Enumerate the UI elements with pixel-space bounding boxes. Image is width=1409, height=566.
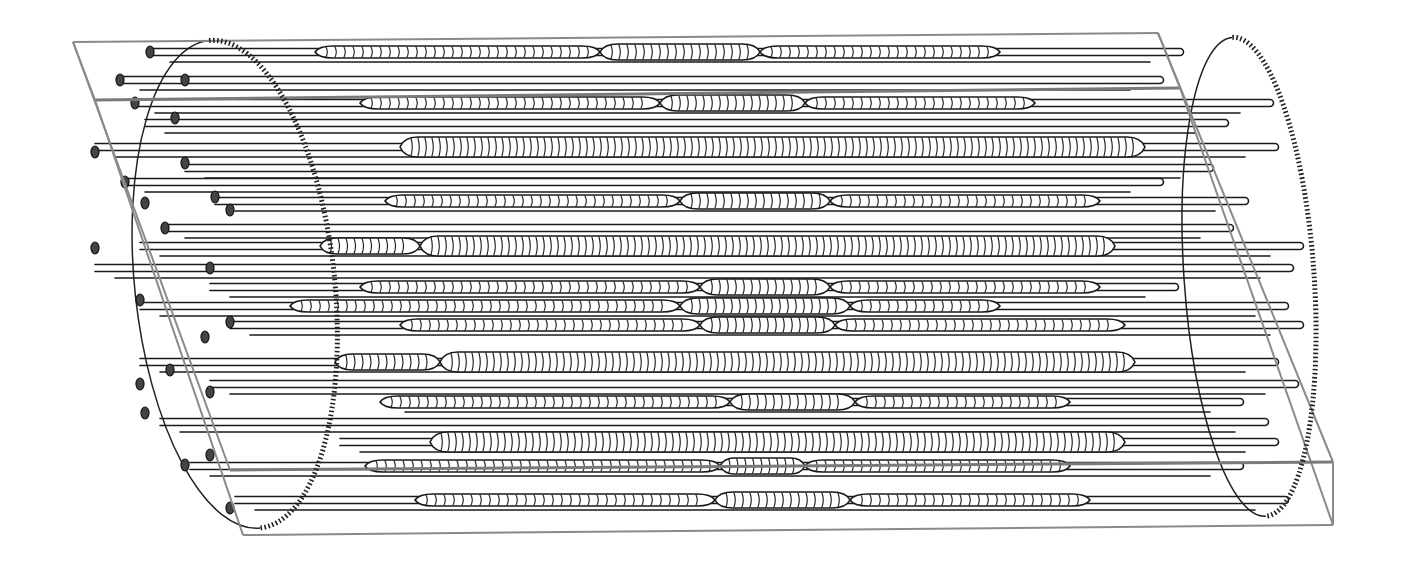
- coil-segment: [850, 300, 1000, 312]
- coil-segment: [360, 97, 660, 109]
- tube-row: [140, 352, 1279, 372]
- coil-segment: [380, 396, 730, 408]
- coil-segment: [680, 298, 850, 314]
- coil-segment: [835, 319, 1125, 331]
- coil-segment: [400, 137, 1145, 157]
- diagram-canvas: [0, 0, 1409, 566]
- tube-end-cap-icon: [91, 242, 99, 254]
- tube-body: [120, 77, 1164, 84]
- tube-row: [120, 77, 1164, 91]
- coil-segment: [760, 46, 1000, 58]
- tube-rows: [95, 44, 1304, 510]
- coil-segment: [660, 95, 805, 111]
- tube-body: [210, 381, 1299, 388]
- tube-body: [185, 165, 1214, 172]
- coil-segment: [715, 492, 850, 508]
- coil-outline: [320, 238, 420, 254]
- tube-row: [235, 492, 1289, 510]
- coil-outline: [600, 44, 760, 60]
- tube-body: [95, 265, 1294, 272]
- tube-end-cap-icon: [226, 316, 234, 328]
- tube-end-cap-icon: [166, 364, 174, 376]
- tube-row: [140, 236, 1304, 256]
- tube-end-cap-icon: [146, 46, 154, 58]
- coil-segment: [430, 432, 1125, 452]
- coil-segment: [315, 46, 600, 58]
- tube-row: [140, 298, 1289, 316]
- coil-outline: [400, 137, 1145, 157]
- tube-row: [230, 317, 1304, 335]
- coil-outline: [290, 300, 680, 312]
- coil-segment: [700, 317, 835, 333]
- coil-segment: [415, 494, 715, 506]
- tube-end-cap-icon: [201, 331, 209, 343]
- coil-outline: [360, 281, 700, 293]
- box-edge-bottom-front: [243, 525, 1333, 535]
- coil-outline: [805, 97, 1035, 109]
- tube-end-cap-icon: [181, 459, 189, 471]
- tube-end-cap-icon: [206, 449, 214, 461]
- tube-body: [160, 419, 1269, 426]
- tube-row: [380, 394, 1244, 412]
- coil-segment: [830, 281, 1100, 293]
- coil-segment: [805, 97, 1035, 109]
- right-end-plate-hatched-edge: [1232, 33, 1330, 516]
- coil-segment: [290, 300, 680, 312]
- tube-row: [215, 193, 1249, 211]
- coil-segment: [700, 279, 830, 295]
- tube-row: [150, 44, 1184, 62]
- tube-end-cap-icon: [226, 204, 234, 216]
- coil-segment: [730, 394, 855, 410]
- tube-end-cap-icon: [171, 112, 179, 124]
- tube-body: [145, 120, 1229, 127]
- tube-row: [340, 432, 1279, 452]
- tube-row: [145, 120, 1229, 134]
- coil-segment: [440, 352, 1135, 372]
- box-edge-top-back: [73, 33, 1158, 42]
- tube-end-cap-icon: [206, 262, 214, 274]
- coil-segment: [360, 281, 700, 293]
- coil-segment: [320, 238, 420, 254]
- tube-bundle-diagram: Line drawing of a bundle of parallel tub…: [0, 0, 1409, 566]
- tube-end-cap-icon: [181, 74, 189, 86]
- coil-segment: [855, 396, 1070, 408]
- tube-end-cap-icon: [136, 378, 144, 390]
- coil-segment: [850, 494, 1090, 506]
- tube-row: [210, 279, 1179, 297]
- tube-end-cap-icon: [181, 157, 189, 169]
- tube-end-cap-icon: [161, 222, 169, 234]
- coil-segment: [335, 354, 440, 370]
- coil-outline: [730, 394, 855, 410]
- coil-outline: [680, 298, 850, 314]
- coil-segment: [680, 193, 830, 209]
- tube-row: [95, 265, 1294, 279]
- coil-segment: [400, 319, 700, 331]
- coil-outline: [315, 46, 600, 58]
- coil-outline: [830, 281, 1100, 293]
- tube-row: [185, 165, 1214, 179]
- right-end-plate-outline: [1167, 37, 1265, 520]
- tube-row: [95, 137, 1279, 157]
- coil-segment: [830, 195, 1100, 207]
- coil-segment: [420, 236, 1115, 256]
- box-edge-right-front-vertical: [1180, 88, 1333, 525]
- tube-end-cap-icon: [116, 74, 124, 86]
- tube-body: [125, 179, 1164, 186]
- coil-segment: [600, 44, 760, 60]
- coil-segment: [385, 195, 680, 207]
- coil-outline: [830, 195, 1100, 207]
- tube-end-cap-icon: [136, 294, 144, 306]
- left-end-plate-hatched-edge: [209, 30, 360, 528]
- tube-row: [125, 179, 1164, 193]
- tube-end-cap-icon: [211, 191, 219, 203]
- tube-end-cap-icon: [91, 146, 99, 158]
- tube-end-cap-icon: [141, 407, 149, 419]
- tube-end-cap-icon: [206, 386, 214, 398]
- tube-end-cap-icon: [141, 197, 149, 209]
- tube-row: [210, 381, 1299, 395]
- coil-outline: [380, 396, 730, 408]
